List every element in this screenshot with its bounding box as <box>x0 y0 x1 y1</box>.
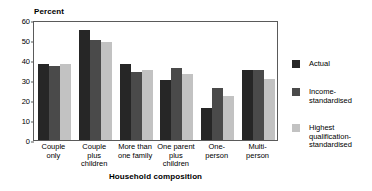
bar <box>120 64 131 140</box>
y-axis-tick-label: 50 <box>22 38 30 46</box>
x-axis-label: One-person <box>193 143 240 160</box>
plot-area: 6050403020100 <box>33 21 278 141</box>
bar-group <box>38 22 71 140</box>
bar <box>60 64 71 140</box>
bar <box>131 72 142 140</box>
y-axis-tick-label: 20 <box>22 98 30 106</box>
y-axis-tick-label: 40 <box>22 58 30 66</box>
x-axis-label: One parentpluschildren <box>153 143 200 169</box>
bar <box>182 74 193 140</box>
x-axis-label-line: children <box>153 160 200 169</box>
bar-group <box>160 22 193 140</box>
bar <box>242 70 253 140</box>
legend-item[interactable]: Income- standardised <box>292 88 352 105</box>
x-axis-label: Coupleonly <box>30 143 77 160</box>
x-axis-title: Household composition <box>33 172 278 181</box>
x-axis-label: Multi-person <box>234 143 281 160</box>
bar-group <box>242 22 275 140</box>
x-axis-labels: CoupleonlyCouplepluschildrenMore thanone… <box>33 143 278 173</box>
legend-label: Income- standardised <box>309 88 352 105</box>
y-axis-tick-label: 60 <box>22 18 30 26</box>
legend-swatch-icon <box>292 60 300 68</box>
bar <box>101 42 112 140</box>
y-axis-tick-label: 10 <box>22 118 30 126</box>
bar-group <box>79 22 112 140</box>
legend-item[interactable]: Actual <box>292 60 330 69</box>
bars-layer <box>34 22 277 140</box>
x-axis-label: Couplepluschildren <box>71 143 118 169</box>
x-axis-label-line: one family <box>112 152 159 161</box>
legend-label: Actual <box>309 60 330 69</box>
bar-group <box>120 22 153 140</box>
bar <box>160 80 171 140</box>
x-axis-label-line: person <box>234 152 281 161</box>
bar <box>201 108 212 140</box>
y-axis-title: Percent <box>34 7 64 16</box>
x-axis-label-line: children <box>71 160 118 169</box>
bar <box>38 64 49 140</box>
x-axis-label-line: only <box>30 152 77 161</box>
x-axis-label: More thanone family <box>112 143 159 160</box>
legend-item[interactable]: Highest qualification- standardised <box>292 124 352 150</box>
bar <box>79 30 90 140</box>
bar <box>212 88 223 140</box>
bar <box>223 96 234 140</box>
bar <box>253 70 264 140</box>
bar <box>90 40 101 140</box>
bar-chart: Percent 6050403020100 CoupleonlyCouplepl… <box>0 0 372 191</box>
y-axis-tick-label: 30 <box>22 78 30 86</box>
bar <box>171 68 182 140</box>
legend-swatch-icon <box>292 124 300 132</box>
bar-group <box>201 22 234 140</box>
x-axis-label-line: person <box>193 152 240 161</box>
bar <box>264 79 275 140</box>
legend-label: Highest qualification- standardised <box>309 124 352 150</box>
bar <box>142 70 153 140</box>
legend-swatch-icon <box>292 88 300 96</box>
bar <box>49 66 60 140</box>
